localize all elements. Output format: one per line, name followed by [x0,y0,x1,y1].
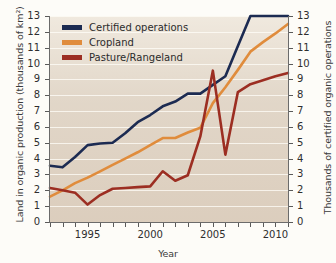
axis-spine-left [49,16,50,223]
legend-item[interactable]: Certified operations [62,20,188,35]
legend-swatch-icon [62,55,82,60]
tick-x-2009 [263,223,264,227]
y-axis-right-title: Thousands of certified organic operation… [322,13,333,223]
tick-label-x-1995: 1995 [68,229,108,240]
tick-label-x-2005: 2005 [193,229,233,240]
tick-label-left-12: 12 [24,26,40,37]
axis-spine-bottom [49,222,289,223]
tick-right-8 [289,95,293,96]
tick-left-2 [45,190,49,191]
tick-x-1997 [113,223,114,227]
tick-x-2000 [150,223,151,227]
tick-label-x-2000: 2000 [130,229,170,240]
y-axis-left-title: Land in organic production (thousands of… [14,13,25,223]
tick-left-9 [45,79,49,80]
tick-label-left-6: 6 [24,121,40,132]
tick-label-right-13: 13 [297,10,313,21]
tick-label-right-11: 11 [297,42,313,53]
legend-swatch-icon [62,25,82,30]
tick-x-1999 [138,223,139,227]
tick-x-2001 [163,223,164,227]
tick-label-left-7: 7 [24,105,40,116]
tick-label-left-4: 4 [24,153,40,164]
tick-label-left-11: 11 [24,42,40,53]
tick-x-2006 [225,223,226,227]
tick-label-right-1: 1 [297,200,313,211]
tick-right-3 [289,174,293,175]
tick-label-right-5: 5 [297,137,313,148]
tick-label-left-0: 0 [24,216,40,227]
tick-label-right-2: 2 [297,184,313,195]
tick-x-2002 [175,223,176,227]
tick-right-9 [289,79,293,80]
legend-item[interactable]: Pasture/Rangeland [62,50,188,65]
tick-left-1 [45,206,49,207]
tick-x-2003 [188,223,189,227]
tick-label-right-3: 3 [297,168,313,179]
tick-label-right-9: 9 [297,73,313,84]
tick-left-8 [45,95,49,96]
organic-production-chart: Land in organic production (thousands of… [0,0,336,263]
tick-x-2007 [238,223,239,227]
tick-right-4 [289,159,293,160]
tick-label-x-2010: 2010 [255,229,295,240]
tick-x-2005 [213,223,214,227]
tick-label-left-13: 13 [24,10,40,21]
legend-swatch-icon [62,40,82,45]
tick-label-right-0: 0 [297,216,313,227]
tick-right-1 [289,206,293,207]
legend-item-label: Certified operations [89,22,188,33]
tick-label-right-6: 6 [297,121,313,132]
tick-right-11 [289,48,293,49]
tick-right-5 [289,143,293,144]
legend-item-label: Cropland [89,37,134,48]
tick-label-right-12: 12 [297,26,313,37]
tick-x-1994 [75,223,76,227]
tick-label-right-7: 7 [297,105,313,116]
tick-left-6 [45,127,49,128]
tick-right-6 [289,127,293,128]
tick-x-1995 [88,223,89,227]
tick-left-4 [45,159,49,160]
x-axis-title: Year [0,248,336,259]
tick-label-left-2: 2 [24,184,40,195]
tick-label-left-1: 1 [24,200,40,211]
tick-left-10 [45,64,49,65]
tick-left-11 [45,48,49,49]
tick-right-2 [289,190,293,191]
tick-x-2008 [250,223,251,227]
tick-label-left-3: 3 [24,168,40,179]
tick-label-right-4: 4 [297,153,313,164]
tick-label-left-10: 10 [24,58,40,69]
tick-right-7 [289,111,293,112]
chart-legend: Certified operationsCroplandPasture/Rang… [62,20,188,65]
tick-right-10 [289,64,293,65]
tick-x-1992 [50,223,51,227]
legend-item-label: Pasture/Rangeland [89,52,183,63]
tick-x-2004 [200,223,201,227]
tick-label-left-8: 8 [24,89,40,100]
tick-x-1998 [125,223,126,227]
tick-x-1996 [100,223,101,227]
legend-item[interactable]: Cropland [62,35,188,50]
tick-x-2011 [288,223,289,227]
tick-label-left-9: 9 [24,73,40,84]
tick-right-12 [289,32,293,33]
tick-label-right-8: 8 [297,89,313,100]
tick-left-0 [45,222,49,223]
tick-right-13 [289,16,293,17]
tick-left-13 [45,16,49,17]
tick-x-1993 [63,223,64,227]
tick-label-right-10: 10 [297,58,313,69]
tick-left-7 [45,111,49,112]
tick-x-2010 [275,223,276,227]
tick-right-0 [289,222,293,223]
tick-left-12 [45,32,49,33]
tick-left-5 [45,143,49,144]
tick-label-left-5: 5 [24,137,40,148]
tick-left-3 [45,174,49,175]
